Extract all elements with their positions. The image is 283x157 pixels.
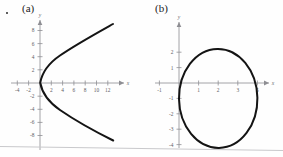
panel-b-xtick-label: 1 <box>197 87 200 93</box>
panel-a-label: (a) <box>22 2 34 14</box>
panel-b-x-ticklabels: -1 1 2 3 5 <box>157 87 259 93</box>
panel-a-xtick-label: -2 <box>26 87 31 93</box>
panel-a-xtick-label: 10 <box>94 87 100 93</box>
chart-panel-b: (b) <box>141 0 283 157</box>
panel-a-ytick-label: -6 <box>30 119 35 125</box>
chart-panel-a: (a) <box>0 0 141 157</box>
panel-a-ytick-label: -2 <box>30 93 35 99</box>
panel-b-ytick-label: -3 <box>169 126 174 132</box>
panel-b-y-ticklabels: 2 1 -1 -2 -3 -4 <box>169 49 174 147</box>
panel-a-plot: -4 -2 2 4 6 8 10 12 8 6 4 2 -2 -4 -6 -8 <box>0 0 141 157</box>
panel-b-plot: -1 1 2 3 5 2 1 -1 -2 -3 -4 x y <box>141 0 283 157</box>
panel-b-label: (b) <box>155 2 168 14</box>
panel-a-xtick-label: 8 <box>84 87 87 93</box>
panel-a-ytick-label: 6 <box>32 41 35 47</box>
panel-a-xtick-label: 4 <box>61 87 64 93</box>
panel-a-xlabel: x <box>126 80 130 86</box>
panel-a-ytick-label: 2 <box>32 67 35 73</box>
panel-a-xtick-label: -4 <box>15 87 20 93</box>
panel-b-y-arrow-icon <box>177 22 182 27</box>
panel-a-ytick-label: 4 <box>32 54 35 60</box>
panel-a-ytick-label: -4 <box>30 106 35 112</box>
panel-b-xtick-label: -1 <box>157 87 162 93</box>
panel-b-ytick-label: -4 <box>169 142 174 148</box>
panel-a-ytick-label: 8 <box>32 27 35 33</box>
panel-b-xtick-label: 2 <box>217 87 220 93</box>
panel-b-x-arrow-icon <box>264 81 269 86</box>
figure-page: (a) <box>0 0 283 157</box>
panel-a-xtick-label: 6 <box>73 87 76 93</box>
panel-b-xtick-label: 3 <box>236 87 239 93</box>
panel-a-x-ticklabels: -4 -2 2 4 6 8 10 12 <box>15 87 111 93</box>
panel-a-xtick-label: 12 <box>105 87 111 93</box>
panel-a-xtick-label: 2 <box>50 87 53 93</box>
panel-b-curve-ellipse <box>178 48 258 148</box>
panel-a-ytick-label: -8 <box>30 132 35 138</box>
panel-a-y-arrow-icon <box>38 20 43 25</box>
panel-b-ylabel: y <box>177 14 181 20</box>
panel-b-ytick-label: 1 <box>171 65 174 71</box>
leading-bullet-icon <box>6 12 8 14</box>
panel-b-xlabel: x <box>271 80 275 86</box>
panel-b-ytick-label: -2 <box>169 111 174 117</box>
panel-a-axes <box>11 20 124 150</box>
panel-b-ytick-label: 2 <box>171 49 174 55</box>
panel-a-x-arrow-icon <box>119 81 124 86</box>
panel-a-ylabel: y <box>38 12 42 18</box>
panel-b-ytick-label: -1 <box>169 95 174 101</box>
